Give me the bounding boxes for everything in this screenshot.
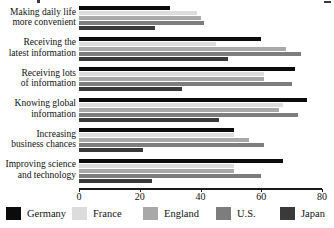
legend-label: England xyxy=(164,207,199,220)
category-label-line: business chances xyxy=(0,139,76,150)
bars-area xyxy=(79,0,334,190)
category-label-line: information xyxy=(0,109,76,120)
bar-group xyxy=(79,6,334,31)
bar-group xyxy=(79,159,334,184)
category-label-line: latest information xyxy=(0,48,76,59)
bar-group xyxy=(79,128,334,153)
bar xyxy=(79,6,170,10)
bar xyxy=(79,143,264,147)
category-label: Receiving thelatest information xyxy=(0,37,76,58)
axis-tick-label: 20 xyxy=(125,191,155,203)
category-label-line: Increasing xyxy=(0,129,76,140)
legend-label: Japan xyxy=(301,207,325,220)
legend-label: Germany xyxy=(27,207,66,220)
bar xyxy=(79,42,216,46)
category-label: Making daily lifemore convenient xyxy=(0,7,76,28)
legend-swatch-icon xyxy=(216,207,231,220)
category-axis-labels: Making daily lifemore convenientReceivin… xyxy=(0,0,78,190)
bar-group xyxy=(79,37,334,62)
legend-label: France xyxy=(93,207,122,220)
axis-tick-label: 60 xyxy=(246,191,276,203)
bar xyxy=(79,98,307,102)
category-label-line: of information xyxy=(0,78,76,89)
bar xyxy=(79,169,234,173)
category-label-line: Making daily life xyxy=(0,7,76,18)
horizontal-bar-chart: Making daily lifemore convenientReceivin… xyxy=(0,0,334,228)
legend-label: U.S. xyxy=(237,207,256,220)
legend-swatch-icon xyxy=(6,207,21,220)
bar xyxy=(79,108,279,112)
category-label-line: Receiving lots xyxy=(0,68,76,79)
bar xyxy=(79,72,264,76)
legend-swatch-icon xyxy=(280,207,295,220)
axis-tick-label: 0 xyxy=(64,191,94,203)
axis-tick-label: 40 xyxy=(186,191,216,203)
bar xyxy=(79,16,201,20)
bar xyxy=(79,164,234,168)
bar xyxy=(79,103,283,107)
category-label-line: Knowing global xyxy=(0,98,76,109)
bar xyxy=(79,67,295,71)
bar xyxy=(79,77,264,81)
bar xyxy=(79,133,234,137)
bar xyxy=(79,26,155,30)
category-label: Increasingbusiness chances xyxy=(0,129,76,150)
bar xyxy=(79,37,261,41)
bar xyxy=(79,113,298,117)
category-label: Receiving lotsof information xyxy=(0,68,76,89)
bar xyxy=(79,128,234,132)
bar-group xyxy=(79,67,334,92)
bar xyxy=(79,52,301,56)
chart-legend: GermanyFranceEnglandU.S.Japan xyxy=(0,205,334,228)
axis-tick-label: 80 xyxy=(307,191,334,203)
bar xyxy=(79,11,197,15)
category-label-line: Improving science xyxy=(0,159,76,170)
category-label-line: and technology xyxy=(0,170,76,181)
category-label: Improving scienceand technology xyxy=(0,159,76,180)
bar xyxy=(79,118,219,122)
category-label: Knowing globalinformation xyxy=(0,98,76,119)
plot-area: Making daily lifemore convenientReceivin… xyxy=(0,0,334,196)
bar xyxy=(79,148,143,152)
legend-swatch-icon xyxy=(72,207,87,220)
category-label-line: Receiving the xyxy=(0,37,76,48)
legend-swatch-icon xyxy=(143,207,158,220)
bar xyxy=(79,138,249,142)
bar xyxy=(79,82,292,86)
bar xyxy=(79,87,182,91)
bar-group xyxy=(79,98,334,123)
bar xyxy=(79,174,261,178)
bar xyxy=(79,57,228,61)
category-label-line: more convenient xyxy=(0,17,76,28)
bar xyxy=(79,21,204,25)
bar xyxy=(79,179,152,183)
bar xyxy=(79,159,283,163)
bar xyxy=(79,47,286,51)
